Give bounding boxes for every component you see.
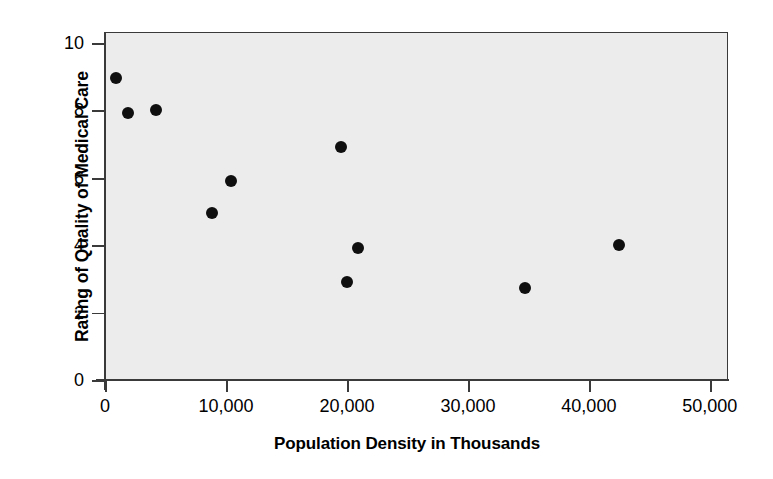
data-point: [519, 282, 531, 294]
scatter-plot-figure: Rating of Quality of Medical Care 024681…: [0, 0, 773, 479]
y-tick-label: 10: [44, 33, 84, 54]
data-point: [335, 141, 347, 153]
data-point: [206, 207, 218, 219]
data-point: [110, 72, 122, 84]
y-tick-mark: [92, 245, 104, 247]
y-tick-label: 4: [44, 235, 84, 256]
x-tick-label: 20,000: [319, 396, 374, 417]
x-tick-mark: [347, 380, 349, 392]
x-tick-label: 0: [100, 396, 110, 417]
x-tick-label: 10,000: [198, 396, 253, 417]
y-tick-mark: [92, 43, 104, 45]
x-tick-label: 40,000: [561, 396, 616, 417]
x-tick-mark: [468, 380, 470, 392]
y-tick-label: 0: [44, 370, 84, 391]
y-tick-mark: [92, 380, 104, 382]
y-tick-mark: [92, 178, 104, 180]
x-tick-label: 30,000: [440, 396, 495, 417]
y-tick-mark: [92, 110, 104, 112]
x-tick-mark: [226, 380, 228, 392]
x-tick-label: 50,000: [682, 396, 737, 417]
data-point: [341, 276, 353, 288]
y-tick-label: 8: [44, 100, 84, 121]
plot-area: [105, 32, 728, 380]
y-axis-title: Rating of Quality of Medical Care: [72, 17, 93, 397]
y-tick-mark: [92, 313, 104, 315]
y-tick-label: 6: [44, 167, 84, 188]
data-point: [225, 175, 237, 187]
y-tick-label: 2: [44, 302, 84, 323]
data-point: [122, 107, 134, 119]
x-tick-mark: [105, 380, 107, 392]
x-tick-mark: [710, 380, 712, 392]
data-point: [150, 104, 162, 116]
data-point: [613, 239, 625, 251]
x-tick-mark: [589, 380, 591, 392]
x-axis-title: Population Density in Thousands: [105, 434, 709, 454]
data-point: [352, 242, 364, 254]
